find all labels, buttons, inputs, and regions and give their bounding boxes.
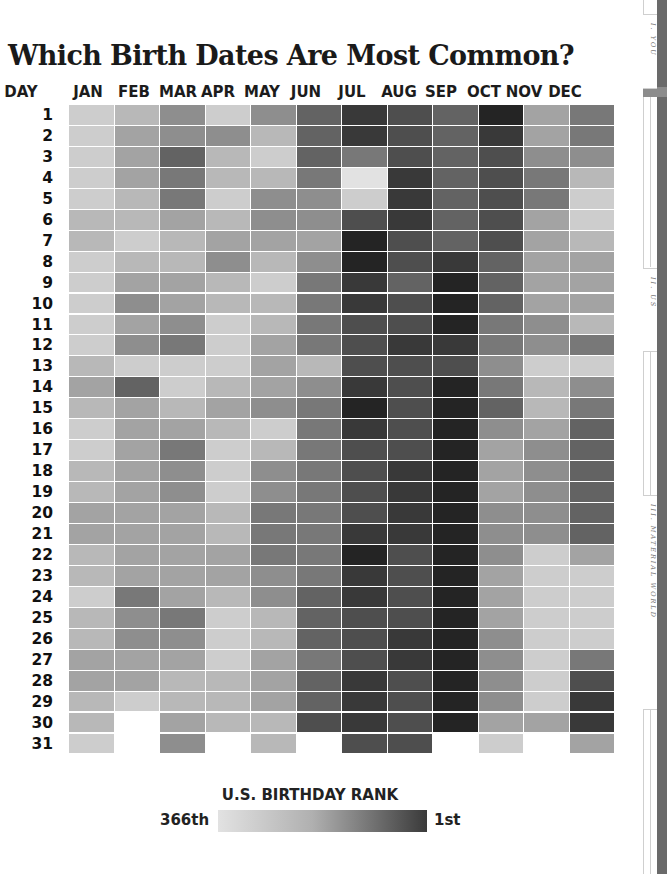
sidebar-rule-inner xyxy=(650,350,651,495)
heatmap-cell xyxy=(206,650,251,670)
heatmap-cell xyxy=(69,231,114,251)
heatmap-cell xyxy=(524,189,569,209)
heatmap-cell xyxy=(433,482,478,502)
heatmap-cell xyxy=(433,335,478,355)
heatmap-cell xyxy=(342,608,387,628)
sidebar-rule-inner xyxy=(650,708,651,874)
heatmap-cell xyxy=(388,210,433,230)
heatmap-cell xyxy=(388,335,433,355)
day-label: 18 xyxy=(0,462,53,480)
heatmap-cell xyxy=(69,315,114,335)
heatmap-cell xyxy=(69,126,114,146)
heatmap-cell xyxy=(479,482,524,502)
month-header-dec: DEC xyxy=(543,83,587,103)
heatmap-cell xyxy=(115,294,160,314)
heatmap-cell xyxy=(115,356,160,376)
heatmap-cell xyxy=(342,126,387,146)
heatmap-cell xyxy=(115,231,160,251)
heatmap-cell xyxy=(388,503,433,523)
day-label: 21 xyxy=(0,525,53,543)
heatmap-cell xyxy=(433,252,478,272)
heatmap-cell xyxy=(115,147,160,167)
heatmap-cell xyxy=(479,650,524,670)
heatmap-cell xyxy=(69,629,114,649)
heatmap-cell xyxy=(388,650,433,670)
heatmap-cell xyxy=(206,356,251,376)
heatmap-cell xyxy=(160,126,205,146)
day-label: 4 xyxy=(0,169,53,187)
day-label: 31 xyxy=(0,735,53,753)
heatmap-cell xyxy=(115,398,160,418)
heatmap-cell xyxy=(69,335,114,355)
heatmap-cell xyxy=(342,189,387,209)
heatmap-cell xyxy=(524,294,569,314)
heatmap-cell xyxy=(479,398,524,418)
heatmap-cell xyxy=(160,231,205,251)
day-label: 12 xyxy=(0,336,53,354)
heatmap-cell xyxy=(115,650,160,670)
heatmap-cell xyxy=(115,377,160,397)
sidebar-rule-inner xyxy=(650,97,651,267)
heatmap-cell xyxy=(160,608,205,628)
heatmap-cell xyxy=(570,210,615,230)
heatmap-cell xyxy=(69,147,114,167)
day-label: 27 xyxy=(0,651,53,669)
heatmap-cell xyxy=(160,482,205,502)
heatmap-cell xyxy=(524,503,569,523)
heatmap-cell xyxy=(342,335,387,355)
heatmap-cell xyxy=(206,105,251,125)
heatmap-cell xyxy=(524,587,569,607)
heatmap-cell xyxy=(479,545,524,565)
heatmap-cell xyxy=(115,168,160,188)
heatmap-cell xyxy=(479,147,524,167)
heatmap-cell xyxy=(206,482,251,502)
heatmap-cell xyxy=(115,608,160,628)
heatmap-cell xyxy=(479,335,524,355)
heatmap-cell xyxy=(479,587,524,607)
heatmap-cell xyxy=(570,482,615,502)
heatmap-cell xyxy=(570,587,615,607)
heatmap-cell xyxy=(206,608,251,628)
heatmap-cell xyxy=(297,189,342,209)
heatmap-cell xyxy=(388,692,433,712)
heatmap-cell xyxy=(570,734,615,754)
heatmap-cell xyxy=(524,147,569,167)
heatmap-cell xyxy=(251,377,296,397)
heatmap-cell xyxy=(206,461,251,481)
heatmap-cell xyxy=(433,377,478,397)
heatmap-cell xyxy=(570,377,615,397)
day-label: 28 xyxy=(0,672,53,690)
heatmap-cell xyxy=(433,566,478,586)
heatmap-cell xyxy=(388,545,433,565)
day-label: 25 xyxy=(0,609,53,627)
heatmap-cell xyxy=(115,273,160,293)
heatmap-cell xyxy=(297,608,342,628)
legend-low-label: 366th xyxy=(160,811,209,829)
heatmap-cell xyxy=(251,189,296,209)
heatmap-cell xyxy=(160,273,205,293)
heatmap-cell xyxy=(433,294,478,314)
heatmap-cell xyxy=(433,671,478,691)
month-header-aug: AUG xyxy=(377,83,421,103)
heatmap-cell xyxy=(342,377,387,397)
sidebar-tab-you[interactable]: I. YOU xyxy=(643,14,657,89)
sidebar-tab-material-world[interactable]: III. MATERIAL WORLD xyxy=(643,495,657,710)
heatmap-cell xyxy=(388,671,433,691)
heatmap-cell xyxy=(388,587,433,607)
heatmap-cell xyxy=(115,566,160,586)
heatmap-cell xyxy=(206,524,251,544)
day-label: 5 xyxy=(0,190,53,208)
heatmap-cell xyxy=(433,587,478,607)
day-label: 6 xyxy=(0,211,53,229)
heatmap-cell xyxy=(160,461,205,481)
month-header-nov: NOV xyxy=(502,83,546,103)
sidebar-tab-us[interactable]: II. US xyxy=(643,268,657,352)
heatmap-cell xyxy=(388,147,433,167)
heatmap-cell xyxy=(251,126,296,146)
heatmap-cell xyxy=(251,315,296,335)
heatmap-cell xyxy=(479,671,524,691)
heatmap-cell xyxy=(160,335,205,355)
heatmap-cell xyxy=(206,189,251,209)
heatmap-cell xyxy=(251,503,296,523)
heatmap-cell xyxy=(251,734,296,754)
